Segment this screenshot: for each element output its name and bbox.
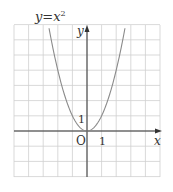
x-tick-label: 1 xyxy=(99,135,106,148)
y-axis-label: y xyxy=(76,24,84,38)
chart-title: y=x2 xyxy=(34,9,66,24)
y-tick-label: 1 xyxy=(78,113,85,126)
parabola-graph: y=x2 y x O 1 1 xyxy=(0,0,173,192)
origin-label: O xyxy=(76,134,86,148)
x-axis-label: x xyxy=(154,134,161,148)
x-axis-arrow-icon xyxy=(155,129,162,134)
y-axis-arrow-icon xyxy=(85,25,90,32)
